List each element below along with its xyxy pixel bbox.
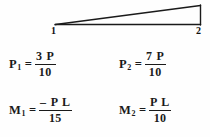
equation-m1-fraction: – P L 15: [39, 96, 72, 124]
equation-p2-symbol: P: [119, 58, 127, 71]
equation-p1-equals: =: [25, 58, 32, 71]
equation-m1: M1 = – P L 15: [9, 96, 72, 124]
equation-p2: P2 = 7 P 10: [119, 50, 166, 78]
equation-p2-fraction: 7 P 10: [145, 50, 166, 78]
equation-p2-lhs: P2: [119, 58, 131, 71]
figure-canvas: 1 2 P1 = 3 P 10 P2 = 7 P 10 M1 = – P: [0, 0, 210, 137]
node-label-2: 2: [196, 26, 201, 36]
equation-m2: M2 = P L 10: [119, 96, 171, 124]
equation-m2-fraction: P L 10: [149, 96, 171, 124]
equation-p1-subscript: 1: [17, 64, 21, 72]
equation-m1-equals: =: [29, 104, 36, 117]
equation-m1-lhs: M1: [9, 104, 25, 117]
equation-p1-lhs: P1: [9, 58, 21, 71]
wedge-hypotenuse-line: [56, 6, 201, 25]
beam-load-diagram: 1 2: [0, 0, 210, 42]
equation-m2-subscript: 2: [131, 110, 135, 118]
equation-p2-denominator: 10: [148, 65, 163, 79]
equation-m2-numerator: P L: [149, 96, 171, 110]
equation-p2-subscript: 2: [127, 64, 131, 72]
equation-p1-denominator: 10: [38, 65, 53, 79]
equation-m2-denominator: 10: [153, 111, 168, 125]
equation-p2-numerator: 7 P: [145, 50, 166, 64]
equation-p1-symbol: P: [9, 58, 17, 71]
equation-m1-symbol: M: [9, 104, 21, 117]
equation-m1-numerator: – P L: [39, 96, 72, 110]
equation-m1-denominator: 15: [48, 111, 63, 125]
equation-m2-lhs: M2: [119, 104, 135, 117]
equation-p2-equals: =: [135, 58, 142, 71]
equation-m1-subscript: 1: [21, 110, 25, 118]
equation-m2-symbol: M: [119, 104, 131, 117]
equation-p1-fraction: 3 P 10: [35, 50, 56, 78]
equation-m2-equals: =: [139, 104, 146, 117]
equation-p1-numerator: 3 P: [35, 50, 56, 64]
node-label-1: 1: [51, 26, 56, 36]
equation-p1: P1 = 3 P 10: [9, 50, 56, 78]
